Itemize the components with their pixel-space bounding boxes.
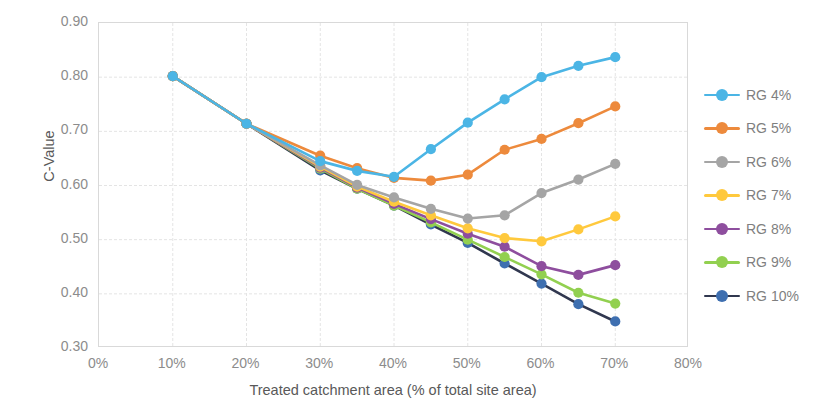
chart-container: C-Value 0.300.400.500.600.700.800.90 0%1… <box>0 0 820 413</box>
legend-swatch <box>704 289 740 303</box>
legend-label: RG 4% <box>740 87 791 103</box>
x-tick-label: 60% <box>511 355 571 371</box>
legend-label: RG 8% <box>740 221 791 237</box>
x-tick-label: 70% <box>584 355 644 371</box>
data-point <box>463 223 473 233</box>
legend-marker-icon <box>716 223 728 235</box>
y-tick-label: 0.80 <box>34 67 88 83</box>
x-tick-label: 50% <box>437 355 497 371</box>
plot-svg <box>99 23 689 348</box>
series-rg-4- <box>168 52 621 182</box>
data-point <box>426 176 436 186</box>
data-point <box>500 242 510 252</box>
legend-item[interactable]: RG 5% <box>704 112 820 146</box>
y-tick-label: 0.60 <box>34 176 88 192</box>
legend-item[interactable]: RG 10% <box>704 279 820 313</box>
x-axis-title: Treated catchment area (% of total site … <box>98 382 688 398</box>
x-tick-label: 20% <box>216 355 276 371</box>
legend-marker-icon <box>716 122 728 134</box>
data-point <box>610 101 620 111</box>
y-axis-title: C-Value <box>41 86 57 226</box>
data-point <box>610 52 620 62</box>
data-point <box>610 316 620 326</box>
chart-legend: RG 4%RG 5%RG 6%RG 7%RG 8%RG 9%RG 10% <box>704 78 820 313</box>
data-point <box>426 144 436 154</box>
data-point <box>500 210 510 220</box>
data-point <box>573 270 583 280</box>
legend-swatch <box>704 121 740 135</box>
legend-item[interactable]: RG 6% <box>704 145 820 179</box>
legend-swatch <box>704 155 740 169</box>
data-point <box>610 260 620 270</box>
legend-label: RG 9% <box>740 254 791 270</box>
data-point <box>463 213 473 223</box>
data-point <box>500 233 510 243</box>
data-point <box>536 278 546 288</box>
data-point <box>573 288 583 298</box>
data-point <box>536 261 546 271</box>
x-tick-label: 10% <box>142 355 202 371</box>
x-tick-label: 0% <box>68 355 128 371</box>
data-point <box>536 134 546 144</box>
legend-label: RG 10% <box>740 288 799 304</box>
data-point <box>536 236 546 246</box>
data-point <box>241 119 251 129</box>
data-point <box>573 299 583 309</box>
data-point <box>463 170 473 180</box>
y-tick-label: 0.40 <box>34 284 88 300</box>
x-tick-label: 80% <box>658 355 718 371</box>
legend-swatch <box>704 88 740 102</box>
data-point <box>500 252 510 262</box>
data-point <box>389 172 399 182</box>
legend-item[interactable]: RG 8% <box>704 212 820 246</box>
legend-marker-icon <box>716 189 728 201</box>
data-point <box>426 204 436 214</box>
y-tick-label: 0.30 <box>34 338 88 354</box>
data-point <box>573 174 583 184</box>
y-tick-label: 0.70 <box>34 121 88 137</box>
data-point <box>315 156 325 166</box>
legend-swatch <box>704 222 740 236</box>
legend-marker-icon <box>716 290 728 302</box>
legend-label: RG 6% <box>740 154 791 170</box>
legend-label: RG 7% <box>740 187 791 203</box>
legend-item[interactable]: RG 4% <box>704 78 820 112</box>
x-tick-label: 40% <box>363 355 423 371</box>
legend-marker-icon <box>716 89 728 101</box>
data-point <box>463 118 473 128</box>
legend-marker-icon <box>716 256 728 268</box>
data-point <box>610 298 620 308</box>
x-tick-label: 30% <box>289 355 349 371</box>
data-point <box>610 211 620 221</box>
data-point <box>573 224 583 234</box>
legend-swatch <box>704 188 740 202</box>
data-point <box>168 71 178 81</box>
legend-label: RG 5% <box>740 120 791 136</box>
legend-swatch <box>704 255 740 269</box>
data-point <box>610 159 620 169</box>
legend-marker-icon <box>716 156 728 168</box>
data-point <box>500 145 510 155</box>
data-point <box>573 118 583 128</box>
data-point <box>500 94 510 104</box>
y-tick-label: 0.90 <box>34 13 88 29</box>
data-point <box>536 72 546 82</box>
data-point <box>536 188 546 198</box>
data-point <box>352 166 362 176</box>
data-point <box>389 192 399 202</box>
data-point <box>352 180 362 190</box>
data-point <box>573 61 583 71</box>
legend-item[interactable]: RG 9% <box>704 246 820 280</box>
y-tick-label: 0.50 <box>34 230 88 246</box>
legend-item[interactable]: RG 7% <box>704 179 820 213</box>
plot-area <box>98 22 688 347</box>
